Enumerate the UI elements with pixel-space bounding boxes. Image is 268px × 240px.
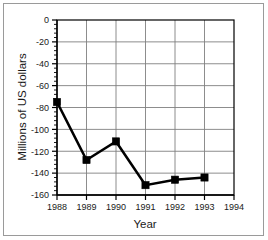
- data-point-marker: [83, 156, 90, 163]
- data-point-marker: [112, 138, 119, 145]
- x-tick-label: 1994: [224, 202, 244, 212]
- y-axis-tick-labels: 0-20-40-60-80-100-120-140-160: [31, 15, 49, 200]
- line-chart: 0-20-40-60-80-100-120-140-160 1988198919…: [0, 0, 268, 240]
- data-point-marker: [53, 98, 60, 105]
- x-tick-label: 1991: [135, 202, 155, 212]
- data-point-marker: [142, 182, 149, 189]
- y-axis-ticks: [52, 20, 57, 195]
- y-tick-label: -120: [31, 147, 49, 157]
- y-tick-label: -140: [31, 168, 49, 178]
- y-tick-label: -20: [36, 37, 49, 47]
- x-tick-label: 1992: [165, 202, 185, 212]
- y-axis-title: Millions of US dollars: [16, 53, 28, 161]
- x-tick-label: 1990: [106, 202, 126, 212]
- chart-figure: 0-20-40-60-80-100-120-140-160 1988198919…: [0, 0, 268, 240]
- x-tick-label: 1988: [47, 202, 67, 212]
- y-tick-label: -60: [36, 81, 49, 91]
- x-tick-label: 1989: [76, 202, 96, 212]
- y-tick-label: -160: [31, 190, 49, 200]
- y-tick-label: -40: [36, 59, 49, 69]
- x-axis-tick-labels: 1988198919901991199219931994: [47, 202, 244, 212]
- x-tick-label: 1993: [194, 202, 214, 212]
- data-point-marker: [171, 176, 178, 183]
- y-tick-label: 0: [44, 15, 49, 25]
- y-tick-label: -80: [36, 103, 49, 113]
- x-axis-title: Year: [133, 218, 156, 230]
- x-axis-ticks: [57, 195, 234, 200]
- data-point-marker: [201, 174, 208, 181]
- y-tick-label: -100: [31, 125, 49, 135]
